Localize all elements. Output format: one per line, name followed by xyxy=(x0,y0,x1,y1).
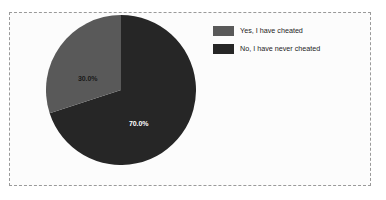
pie-chart-graphic xyxy=(46,15,196,165)
chart-frame: 30.0% 70.0% Yes, I have cheated No, I ha… xyxy=(9,12,371,186)
legend-swatch-icon-yes xyxy=(213,26,234,36)
legend-label-yes: Yes, I have cheated xyxy=(240,26,303,36)
legend-label-no: No, I have never cheated xyxy=(240,44,320,54)
pie-slice-label-no: 70.0% xyxy=(129,120,148,127)
chart-legend: Yes, I have cheated No, I have never che… xyxy=(213,26,363,62)
legend-item-yes[interactable]: Yes, I have cheated xyxy=(213,26,363,36)
legend-swatch-icon-no xyxy=(213,44,234,54)
pie-chart-plot-area: 30.0% 70.0% Yes, I have cheated No, I ha… xyxy=(10,13,372,187)
legend-item-no[interactable]: No, I have never cheated xyxy=(213,44,363,54)
pie-slice-label-yes: 30.0% xyxy=(78,75,97,82)
